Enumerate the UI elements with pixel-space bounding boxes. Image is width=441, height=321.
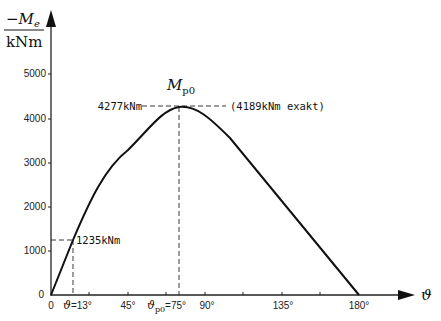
svg-text:2000: 2000 — [24, 201, 47, 212]
x-axis-label: ϑ — [421, 286, 432, 304]
moment-curve — [51, 107, 359, 295]
svg-text:4000: 4000 — [24, 113, 47, 124]
svg-text:180°: 180° — [349, 300, 370, 311]
svg-text:90°: 90° — [199, 300, 214, 311]
point-value: 1235kNm — [76, 234, 120, 246]
y-axis-label: −Me kNm — [4, 10, 44, 51]
svg-text:1000: 1000 — [24, 245, 47, 256]
svg-text:0: 0 — [48, 300, 54, 311]
peak-label: Mp0 — [166, 76, 195, 96]
svg-text:3000: 3000 — [24, 157, 47, 168]
y-axis-arrow-icon — [46, 10, 56, 27]
svg-text:ϑ=13°: ϑ=13° — [63, 299, 92, 312]
x-tick-labels: 0 ϑ=13° 45° ϑp0=75° 90° 135° 180° — [48, 299, 369, 314]
exact-value: (4189kNm exakt) — [230, 100, 325, 112]
svg-text:45°: 45° — [120, 300, 135, 311]
svg-text:ϑp0=75°: ϑp0=75° — [147, 299, 186, 314]
peak-value: 4277kNm — [98, 100, 142, 112]
svg-text:0: 0 — [38, 289, 44, 300]
guide-lines — [51, 106, 226, 295]
svg-text:kNm: kNm — [6, 33, 42, 51]
x-axis-arrow-icon — [398, 290, 415, 300]
svg-text:135°: 135° — [273, 300, 294, 311]
svg-text:−Me: −Me — [6, 10, 40, 29]
chart: −Me kNm 0 1000 2000 3000 4000 5000 0 ϑ=1… — [0, 0, 441, 321]
svg-text:5000: 5000 — [24, 68, 47, 79]
y-ticks: 0 1000 2000 3000 4000 5000 — [24, 68, 51, 300]
